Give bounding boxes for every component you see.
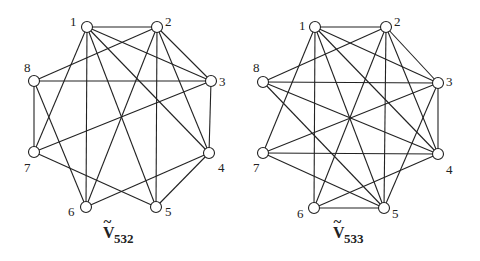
vertex-2 — [381, 22, 392, 33]
vertex-6 — [309, 203, 320, 214]
vertex-label-8: 8 — [253, 60, 260, 75]
edge-3-7 — [34, 81, 211, 152]
edge-2-5 — [156, 27, 157, 207]
graph-label-subscript: 533 — [344, 231, 364, 246]
edge-2-5 — [384, 27, 386, 208]
graph-label: ~ V 533 — [333, 214, 364, 246]
vertex-label-3: 3 — [219, 74, 226, 89]
vertex-3 — [433, 78, 444, 89]
edge-1-4 — [87, 27, 209, 153]
edge-1-6 — [86, 27, 87, 207]
edge-3-4 — [209, 81, 211, 153]
edge-4-7 — [263, 153, 438, 154]
vertex-label-5: 5 — [392, 206, 399, 221]
edge-1-3 — [87, 27, 211, 81]
vertex-label-7: 7 — [253, 160, 260, 175]
vertex-6 — [81, 202, 92, 213]
edge-2-4 — [157, 27, 209, 153]
vertex-4 — [433, 149, 444, 160]
edge-2-4 — [386, 27, 438, 154]
vertex-8 — [29, 76, 40, 87]
edge-1-6 — [314, 27, 315, 208]
vertex-5 — [379, 203, 390, 214]
vertex-2 — [152, 22, 163, 33]
vertex-label-4: 4 — [218, 160, 225, 175]
vertex-3 — [206, 76, 217, 87]
vertex-label-8: 8 — [24, 60, 31, 75]
vertex-1 — [82, 22, 93, 33]
vertex-label-2: 2 — [394, 14, 401, 29]
graph-figure: 12345678 ~ V 532 12345678 ~ V 533 — [0, 0, 480, 261]
vertex-label-5: 5 — [165, 204, 172, 219]
graph-v533: 12345678 ~ V 533 — [253, 14, 453, 246]
vertex-label-2: 2 — [165, 14, 172, 29]
edge-6-8 — [34, 81, 86, 207]
vertex-label-1: 1 — [299, 18, 306, 33]
edges — [34, 27, 211, 207]
vertex-label-3: 3 — [446, 74, 453, 89]
vertex-4 — [204, 148, 215, 159]
edge-3-8 — [263, 82, 438, 83]
node-labels: 12345678 — [24, 14, 226, 219]
edge-4-8 — [263, 82, 438, 154]
edge-2-3 — [386, 27, 438, 83]
edges — [263, 27, 438, 208]
vertex-8 — [258, 77, 269, 88]
vertex-label-7: 7 — [24, 160, 31, 175]
vertex-label-6: 6 — [68, 204, 75, 219]
vertex-label-6: 6 — [297, 206, 304, 221]
vertex-1 — [310, 22, 321, 33]
vertex-7 — [258, 148, 269, 159]
vertex-5 — [151, 202, 162, 213]
graph-label-subscript: 532 — [114, 231, 134, 246]
edge-4-5 — [156, 153, 209, 207]
graph-label: ~ V 532 — [103, 214, 134, 246]
vertex-7 — [29, 147, 40, 158]
edge-5-8 — [263, 82, 384, 208]
vertex-label-4: 4 — [446, 162, 453, 177]
edge-1-7 — [34, 27, 87, 152]
edge-2-3 — [157, 27, 211, 81]
graph-v532: 12345678 ~ V 532 — [24, 14, 226, 246]
vertex-label-1: 1 — [70, 14, 77, 29]
